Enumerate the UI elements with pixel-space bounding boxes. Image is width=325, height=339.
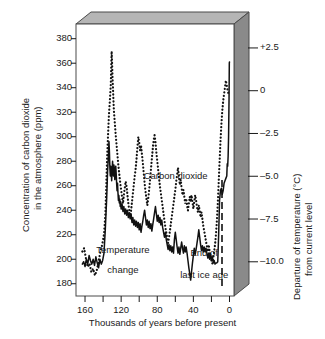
y-left-tick-label: 280 bbox=[48, 155, 72, 166]
x-tick-label: 160 bbox=[65, 304, 105, 315]
box-top-face bbox=[76, 12, 249, 24]
x-tick-label: 0 bbox=[209, 304, 249, 315]
x-axis-title: Thousands of years before present bbox=[0, 317, 325, 328]
right-axis-title-line2: from current level bbox=[303, 203, 314, 276]
y-right-tick-label: –7.5 bbox=[260, 213, 279, 224]
y-left-tick-label: 320 bbox=[48, 106, 72, 117]
right-axis-title-line1: Departure of temperature (°C) bbox=[291, 174, 302, 300]
end-of-last-ice-age-label-line1: End of bbox=[156, 247, 252, 258]
y-right-tick-label: –5.0 bbox=[260, 170, 279, 181]
y-left-tick-label: 340 bbox=[48, 81, 72, 92]
carbon-dioxide-label: Carbon dioxide bbox=[144, 170, 240, 181]
x-tick-label: 80 bbox=[137, 304, 177, 315]
y-left-tick-label: 240 bbox=[48, 204, 72, 215]
y-left-tick-label: 360 bbox=[48, 57, 72, 68]
y-left-tick-label: 300 bbox=[48, 130, 72, 141]
x-tick-label: 40 bbox=[173, 304, 213, 315]
y-right-tick-label: +2.5 bbox=[260, 41, 279, 52]
y-right-tick-label: 0 bbox=[260, 84, 265, 95]
y-right-tick-label: –2.5 bbox=[260, 127, 279, 138]
y-left-tick-label: 200 bbox=[48, 253, 72, 264]
left-axis-title-line1: Concentration of carbon dioxide bbox=[20, 98, 31, 232]
y-left-tick-label: 380 bbox=[48, 32, 72, 43]
left-axis-title-line2: in the atmosphere (ppm) bbox=[32, 107, 43, 211]
x-tick-label: 120 bbox=[101, 304, 141, 315]
end-of-last-ice-age-label-line2: last ice age bbox=[156, 269, 252, 280]
chart-figure: Concentration of carbon dioxide in the a… bbox=[0, 0, 325, 339]
y-left-tick-label: 180 bbox=[48, 277, 72, 288]
y-left-tick-label: 260 bbox=[48, 179, 72, 190]
y-right-tick-label: –10.0 bbox=[260, 255, 284, 266]
y-left-tick-label: 220 bbox=[48, 228, 72, 239]
